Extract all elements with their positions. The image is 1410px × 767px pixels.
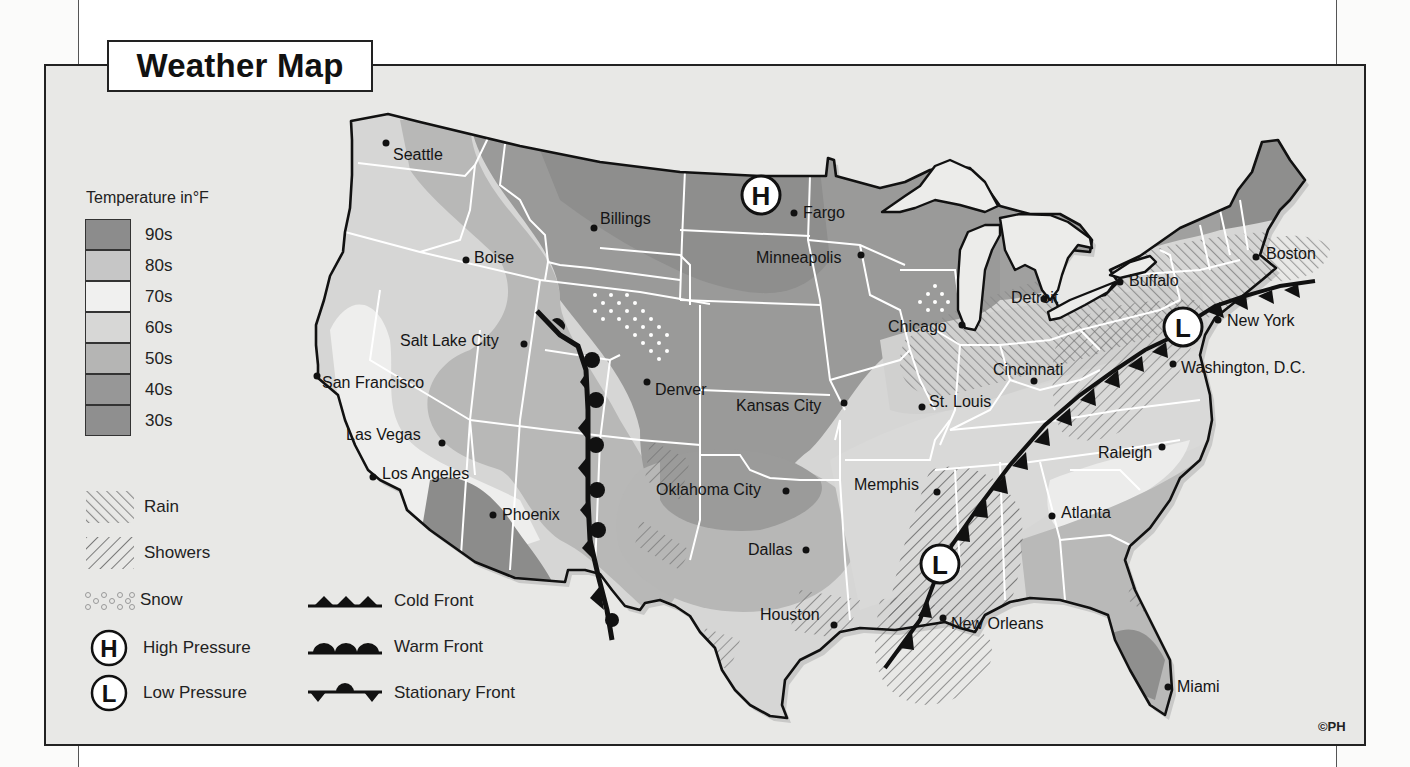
map-title-box: Weather Map (107, 40, 373, 92)
city-label-washington-dc: Washington, D.C. (1181, 360, 1306, 376)
city-label-raleigh: Raleigh (1098, 445, 1152, 461)
map-title: Weather Map (137, 47, 344, 85)
city-label-miami: Miami (1177, 679, 1220, 695)
city-label-fargo: Fargo (803, 205, 845, 221)
high-pressure-symbol: H (742, 176, 780, 214)
city-label-atlanta: Atlanta (1061, 505, 1111, 521)
legend-stationary-front: Stationary Front (308, 680, 515, 706)
legend-label: Rain (144, 497, 179, 517)
legend-band-60s: 60s (85, 313, 133, 344)
legend-band-70s: 70s (85, 282, 133, 313)
legend-band-90s: 90s (85, 220, 133, 251)
swatch-80s (85, 250, 131, 281)
swatch-label: 90s (145, 225, 172, 245)
rain-hatch-icon (86, 491, 134, 523)
city-label-san-francisco: San Francisco (322, 375, 424, 391)
low-pressure-symbol-south: L (921, 545, 959, 583)
city-label-chicago: Chicago (888, 319, 947, 335)
svg-text:L: L (102, 680, 117, 707)
city-label-salt-lake-city: Salt Lake City (400, 333, 499, 349)
svg-text:H: H (752, 181, 771, 211)
city-label-dallas: Dallas (748, 542, 792, 558)
city-label-new-york: New York (1227, 313, 1295, 329)
swatch-label: 60s (145, 318, 172, 338)
temperature-legend-title: Temperature in°F (86, 189, 209, 207)
low-pressure-icon: L (89, 673, 129, 713)
legend-rain: Rain (86, 491, 179, 523)
swatch-label: 70s (145, 287, 172, 307)
city-label-minneapolis: Minneapolis (756, 250, 841, 266)
city-label-phoenix: Phoenix (502, 507, 560, 523)
swatch-70s (85, 281, 131, 312)
legend-snow: Snow (84, 589, 183, 611)
city-label-billings: Billings (600, 211, 651, 227)
city-label-boise: Boise (474, 250, 514, 266)
high-pressure-icon: H (89, 628, 129, 668)
legend-label: Low Pressure (143, 683, 247, 703)
legend-label: Warm Front (394, 637, 483, 657)
swatch-label: 30s (145, 411, 172, 431)
showers-hatch-icon (86, 537, 134, 569)
snow-dots-icon (84, 589, 136, 611)
city-label-oklahoma-city: Oklahoma City (656, 482, 761, 498)
svg-text:L: L (932, 550, 948, 580)
city-label-las-vegas: Las Vegas (346, 427, 421, 443)
legend-label: Snow (140, 590, 183, 610)
legend-cold-front: Cold Front (308, 590, 473, 612)
svg-text:H: H (100, 635, 117, 662)
legend-warm-front: Warm Front (308, 636, 483, 658)
city-label-memphis: Memphis (854, 477, 919, 493)
svg-text:L: L (1175, 313, 1191, 343)
city-label-seattle: Seattle (393, 147, 443, 163)
swatch-60s (85, 312, 131, 343)
swatch-40s (85, 374, 131, 405)
legend-band-30s: 30s (85, 406, 133, 437)
city-label-new-orleans: New Orleans (951, 616, 1043, 632)
city-label-houston: Houston (760, 607, 820, 623)
legend-showers: Showers (86, 537, 210, 569)
low-pressure-symbol-northeast: L (1164, 308, 1202, 346)
warm-front-icon (308, 636, 382, 658)
legend-band-40s: 40s (85, 375, 133, 406)
swatch-label: 50s (145, 349, 172, 369)
city-label-denver: Denver (655, 382, 707, 398)
city-label-kansas-city: Kansas City (736, 398, 821, 414)
city-label-st-louis: St. Louis (929, 394, 991, 410)
legend-high-pressure: H High Pressure (89, 628, 251, 668)
cold-front-icon (308, 590, 382, 612)
temperature-legend: 90s 80s 70s 60s 50s 40s 30s (85, 220, 133, 437)
legend-low-pressure: L Low Pressure (89, 673, 247, 713)
swatch-50s (85, 343, 131, 374)
legend-band-50s: 50s (85, 344, 133, 375)
swatch-30s (85, 405, 131, 436)
legend-band-80s: 80s (85, 251, 133, 282)
swatch-label: 40s (145, 380, 172, 400)
city-label-buffalo: Buffalo (1129, 273, 1179, 289)
swatch-label: 80s (145, 256, 172, 276)
city-label-los-angeles: Los Angeles (382, 466, 469, 482)
stationary-front-icon (308, 680, 382, 706)
legend-label: Stationary Front (394, 683, 515, 703)
legend-label: Showers (144, 543, 210, 563)
city-label-boston: Boston (1266, 246, 1316, 262)
swatch-90s (85, 219, 131, 250)
copyright-mark: ©PH (1318, 719, 1346, 734)
city-label-detroit: Detroit (1011, 290, 1058, 306)
city-label-cincinnati: Cincinnati (993, 362, 1063, 378)
legend-label: High Pressure (143, 638, 251, 658)
legend-label: Cold Front (394, 591, 473, 611)
